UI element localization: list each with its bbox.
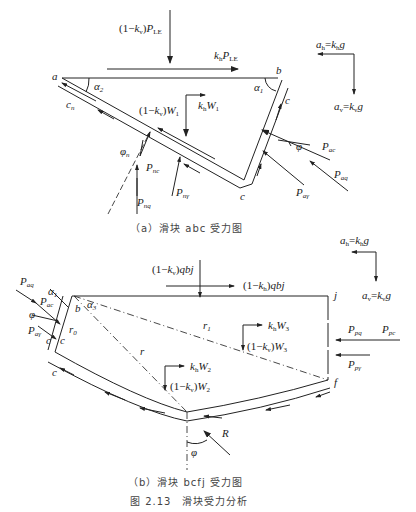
P-aq-label: Paq [333, 168, 348, 182]
cohesion-cn-label: cn [66, 98, 75, 112]
point-c-label: c [240, 190, 245, 202]
r-label: r [140, 345, 145, 357]
alpha3-label: α3 [87, 298, 97, 312]
top-load-label: (1−kv)PLE [119, 22, 162, 36]
R-label: R [221, 427, 229, 439]
phi-n-label: φn [120, 145, 130, 159]
horizontal-load-label: khPLE [214, 49, 238, 63]
point-j-label: j [332, 289, 337, 301]
sliding-block-abc [58, 78, 288, 188]
r1-label: r1 [203, 319, 211, 333]
phi-label-b: φ [191, 446, 197, 458]
weight3-vertical-label: (1−kv)W3 [247, 340, 288, 354]
c-bottom-label: c [52, 366, 57, 378]
horizontal-load-b-label: (1−kh)qbj [243, 279, 285, 293]
phi-label-a: φ [296, 140, 302, 152]
acceleration-legend-a: ah=khg av=kvg [316, 38, 364, 114]
P-ac-label-b: Pac [39, 295, 54, 309]
horizontal-load-arrow: khPLE [107, 49, 238, 69]
cohesion-c-label: c [285, 94, 290, 106]
weight3-horizontal-label: khW3 [268, 319, 290, 333]
acceleration-legend-b: ah=khg av=kvg [340, 234, 392, 303]
subfigure-b: (1−kv)qbj (1−kh)qbj j b α1 α3 r0 c c c f… [16, 234, 400, 488]
figure-caption: 图 2.13 滑块受力分析 [130, 495, 248, 507]
P-agamma-label: Paγ [295, 186, 309, 200]
point-b-label: b [276, 64, 282, 76]
subfigure-a: (1−kv)PLE khPLE a b c α2 α1 cn [52, 10, 364, 234]
P-ngamma-label: Pnγ [175, 186, 189, 200]
caption-b: （b）滑块 bcfj 受力图 [128, 476, 243, 488]
av-label-b: av=kvg [362, 289, 392, 303]
force-diagram: (1−kv)PLE khPLE a b c α2 α1 cn [0, 0, 416, 512]
alpha2-arc [86, 78, 89, 92]
point-b-label-b: b [75, 302, 81, 314]
c-left-label-2: c [60, 334, 65, 346]
ah-label: ah=khg [316, 38, 346, 52]
point-f-label: f [334, 376, 339, 388]
weight-vertical-label: (1−kv)W1 [139, 104, 180, 118]
point-a-label: a [52, 70, 58, 82]
P-nc-label: Pnc [145, 161, 160, 175]
phi-label-left: φ [29, 308, 35, 320]
P-aq-label-b: Paq [19, 275, 34, 289]
P-pq-label: Ppq [347, 323, 362, 337]
caption-a: （a）滑块 abc 受力图 [130, 222, 243, 234]
P-nq-label: Pnq [136, 196, 151, 210]
av-label: av=kvg [334, 100, 364, 114]
alpha1-label: α1 [254, 81, 263, 95]
alpha2-label: α2 [94, 80, 104, 94]
weight2-vertical-label: (1−kv)W2 [170, 380, 211, 394]
top-load-b-label: (1−kv)qbj [152, 263, 194, 277]
c-left-label-1: c [46, 334, 51, 346]
P-agamma-label-b: Paγ [27, 324, 41, 338]
alpha1-arc [265, 78, 276, 91]
P-ac-label: Pac [321, 140, 336, 154]
ah-label-b: ah=khg [340, 234, 370, 248]
weight-w1-arrows: (1−kv)W1 khW1 [139, 95, 220, 136]
P-pgamma-label: Ppγ [347, 358, 361, 372]
P-pc-label: Ppc [381, 323, 396, 337]
weight2-horizontal-label: khW2 [190, 360, 212, 374]
top-load-arrow: (1−kv)PLE [119, 10, 170, 63]
weight-horizontal-label: khW1 [198, 99, 220, 113]
r0-label: r0 [69, 323, 77, 337]
